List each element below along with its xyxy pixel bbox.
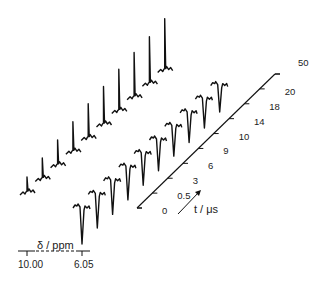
time-tick-label: 14	[254, 117, 265, 127]
time-tick-label: 9	[223, 146, 228, 156]
ppm-tick-right: 6.05	[74, 260, 93, 270]
spectrum-trace-6ppm	[104, 177, 121, 215]
spectrum-trace-10ppm	[35, 158, 50, 181]
spectrum-trace-6ppm	[73, 204, 90, 244]
spectrum-trace-10ppm	[81, 104, 96, 141]
time-tick-label: 3	[193, 176, 198, 186]
spectrum-trace-10ppm	[112, 69, 127, 113]
spectrum-trace-6ppm	[211, 82, 228, 112]
spectrum-trace-6ppm	[165, 122, 182, 156]
spectrum-trace-10ppm	[127, 53, 142, 100]
spectrum-trace-6ppm	[180, 109, 197, 143]
spectrum-trace-10ppm	[66, 122, 81, 154]
time-tick-label: 50	[298, 58, 309, 68]
spectrum-trace-6ppm	[134, 150, 151, 186]
time-axis-line	[137, 74, 275, 208]
ppm-axis-label: δ / ppm	[37, 240, 74, 250]
spectrum-trace-10ppm	[142, 37, 157, 86]
spectrum-trace-10ppm	[97, 87, 112, 128]
time-tick-label: 6	[208, 161, 213, 171]
time-axis-label: t / μs	[194, 204, 218, 214]
spectrum-trace-10ppm	[51, 140, 66, 168]
spectrum-trace-6ppm	[195, 95, 212, 128]
time-tick-label: 20	[285, 87, 296, 97]
time-tick-label: 18	[269, 102, 280, 112]
ppm-tick-left: 10.00	[18, 260, 43, 270]
spectrum-trace-6ppm	[150, 136, 167, 171]
time-tick-label: 0	[162, 206, 167, 216]
spectrum-trace-6ppm	[119, 163, 136, 200]
time-tick-label: 0.5	[177, 191, 190, 201]
time-tick-label: 10	[239, 132, 250, 142]
spectrum-trace-6ppm	[88, 190, 105, 228]
spectrum-trace-10ppm	[158, 19, 173, 73]
spectrum-trace-10ppm	[20, 177, 35, 195]
